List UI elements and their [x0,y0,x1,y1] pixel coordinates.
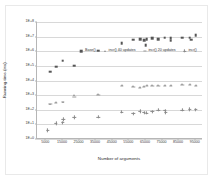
x-tick-label: 95000 [190,141,200,145]
y-axis-title-text: Running time (ms) [3,63,7,99]
y-tick-label: 1E+7 [26,35,35,39]
data-point [120,110,123,113]
x-tick-mark [78,138,79,140]
data-point [145,38,148,41]
legend-entry[interactable]: Base() [79,49,96,53]
data-point [190,39,193,42]
legend-label: incr() 20 updates [149,49,176,53]
gridline [37,81,202,82]
y-tick-label: 1E+0 [26,137,35,141]
legend-marker-plus-icon [183,49,187,53]
data-point [151,37,154,40]
data-point [144,44,147,47]
y-tick-label: 1E+5 [26,64,35,68]
legend-entry[interactable]: incr() 40 updates [103,49,136,53]
chart-legend: Base()incr() 40 updatesincr() 20 updates… [79,49,197,53]
legend-marker-square-icon [79,49,83,53]
y-tick-mark [35,51,37,52]
data-point [163,85,166,86]
data-point [61,60,64,63]
gridline [37,124,202,125]
y-tick-mark [35,36,37,37]
data-point [188,85,191,86]
data-point [156,108,159,111]
legend-entry[interactable]: incr() [183,49,197,53]
data-point [157,38,160,41]
plot-area: 1E+01E+11E+21E+31E+41E+51E+61E+71E+8 500… [36,22,202,139]
data-point [151,86,154,87]
data-point [73,96,76,97]
legend-entry[interactable]: incr() 20 updates [143,49,176,53]
x-tick-label: 15000 [57,141,67,145]
data-point [120,42,123,45]
x-axis-title: Number of arguments [36,157,202,161]
y-tick-mark [35,65,37,66]
y-tick-mark [35,139,37,140]
x-tick-mark [61,138,62,140]
x-tick-label: 55000 [123,141,133,145]
x-tick-mark [161,138,162,140]
legend-label: incr() 40 updates [109,49,136,53]
legend-label: incr() [189,49,197,53]
y-tick-mark [35,95,37,96]
data-point [132,112,135,115]
gridline [37,95,202,96]
x-tick-mark [111,138,112,140]
data-point [49,104,52,105]
y-tick-label: 1E+3 [26,93,35,97]
x-tick-mark [95,138,96,140]
data-point [132,87,135,88]
data-point [194,85,197,86]
x-tick-label: 5000 [41,141,49,145]
data-point [194,108,197,111]
data-point [54,122,57,125]
data-point [62,118,65,121]
data-point [120,86,123,87]
data-point [46,128,49,131]
data-point [181,108,184,111]
data-point [181,37,184,40]
y-tick-label: 1E+8 [26,20,35,24]
data-point [151,110,154,113]
legend-marker-dash-icon [143,49,147,53]
data-point [97,94,100,95]
data-point [169,39,172,42]
gridline [37,66,202,67]
data-point [61,101,64,102]
x-tick-label: 65000 [140,141,150,145]
y-tick-label: 1E+4 [26,79,35,83]
chart-figure: Running time (ms) 1E+01E+11E+21E+31E+41E… [0,0,213,180]
data-point [169,85,172,86]
data-point [164,36,167,39]
data-point [156,85,159,86]
data-point [194,34,197,37]
data-point [138,87,141,88]
y-tick-label: 1E+2 [26,108,35,112]
legend-marker-triangle-icon [103,49,107,53]
data-point [138,109,141,112]
y-tick-label: 1E+6 [26,49,35,53]
x-tick-mark [178,138,179,140]
y-tick-mark [35,109,37,110]
x-tick-mark [194,138,195,140]
x-tick-mark [128,138,129,140]
y-axis-title: Running time (ms) [0,22,10,139]
data-point [97,115,100,118]
gridline [37,22,202,23]
data-point [49,70,52,73]
data-point [132,38,135,41]
data-point [181,85,184,86]
x-tick-mark [45,138,46,140]
data-point [54,102,57,103]
data-point [55,65,58,68]
legend-label: Base() [85,49,96,53]
y-tick-mark [35,22,37,23]
x-tick-label: 45000 [107,141,117,145]
data-point [145,86,148,87]
data-point [145,111,148,114]
x-tick-label: 35000 [90,141,100,145]
y-tick-mark [35,124,37,125]
data-point [164,111,167,114]
data-point [139,38,142,41]
data-point [61,121,64,124]
